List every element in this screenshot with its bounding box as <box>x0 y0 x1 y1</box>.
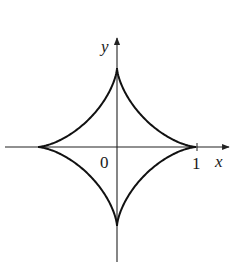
origin-label: 0 <box>100 153 109 172</box>
y-axis-label: y <box>99 37 109 56</box>
x-axis-label: x <box>214 152 223 171</box>
astroid-figure: y x 0 1 <box>0 0 250 272</box>
tick-label-1: 1 <box>192 154 201 173</box>
